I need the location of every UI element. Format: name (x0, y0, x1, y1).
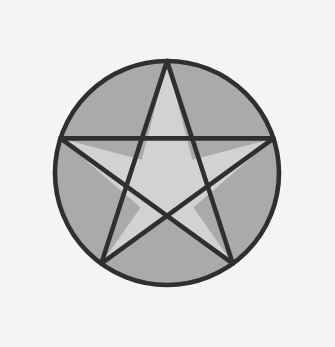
pentagram-figure (0, 0, 335, 347)
image-canvas (0, 0, 335, 347)
